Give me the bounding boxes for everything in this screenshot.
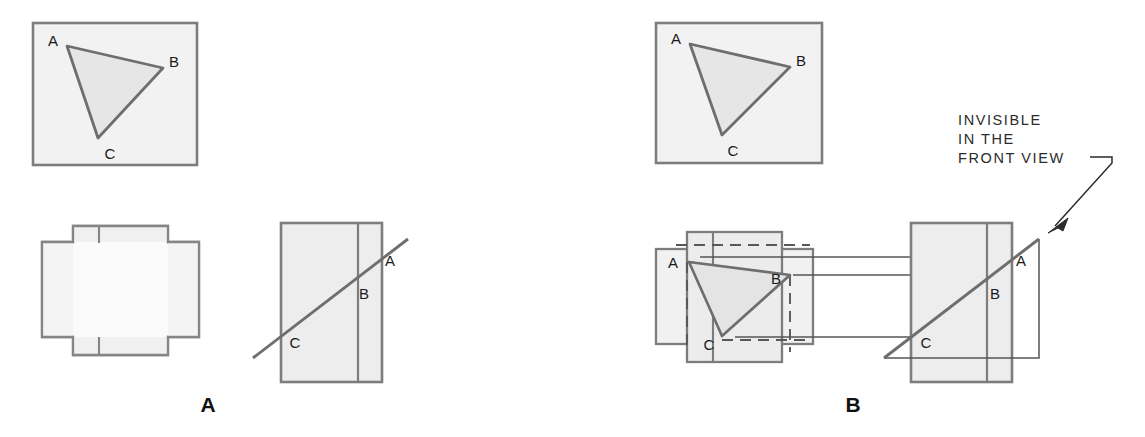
vertex-label-a: A (385, 252, 395, 269)
note-line-1: INVISIBLE (958, 112, 1042, 128)
vertex-label-a: A (668, 254, 678, 271)
figure-root: A B C A B C (0, 0, 1145, 437)
top-view-tab-bottom (73, 337, 168, 355)
panel-b-annotation: INVISIBLE IN THE FRONT VIEW (958, 112, 1112, 233)
panel-a-caption: A (200, 393, 215, 416)
panel-b-side-view: A B C (884, 223, 1039, 382)
leader-line (1055, 157, 1112, 226)
vertex-label-a: A (671, 30, 681, 47)
vertex-label-c: C (728, 142, 739, 159)
vertex-label-c: C (921, 334, 932, 351)
note-line-3: FRONT VIEW (958, 150, 1065, 166)
panel-b-pictorial-view: A B C (656, 23, 822, 163)
leader-arrowhead-icon (1048, 218, 1068, 233)
side-view-frame (281, 223, 382, 382)
vertex-label-b: B (359, 285, 369, 302)
top-view-tab-left (42, 242, 73, 337)
vertex-label-a: A (48, 32, 58, 49)
vertex-label-c: C (704, 336, 715, 353)
panel-b-top-view: A B C (656, 232, 813, 362)
vertex-label-b: B (796, 52, 806, 69)
panel-a: A B C A B C (33, 23, 408, 416)
panel-a-pictorial-view: A B C (33, 23, 197, 165)
vertex-label-c: C (290, 334, 301, 351)
top-view-tab-right (168, 242, 199, 337)
vertex-label-b: B (169, 53, 179, 70)
vertex-label-c: C (105, 145, 116, 162)
panel-a-top-view (42, 226, 199, 355)
vertex-label-a: A (1016, 252, 1026, 269)
panel-a-side-view: A B C (253, 223, 408, 382)
note-line-2: IN THE (958, 131, 1015, 147)
vertex-label-b: B (990, 285, 1000, 302)
panel-b: A B C A B C (656, 23, 1112, 416)
vertex-label-b: B (771, 270, 781, 287)
technical-drawing-canvas: A B C A B C (0, 0, 1145, 437)
top-view-tab-top (73, 226, 168, 242)
panel-b-caption: B (845, 393, 860, 416)
